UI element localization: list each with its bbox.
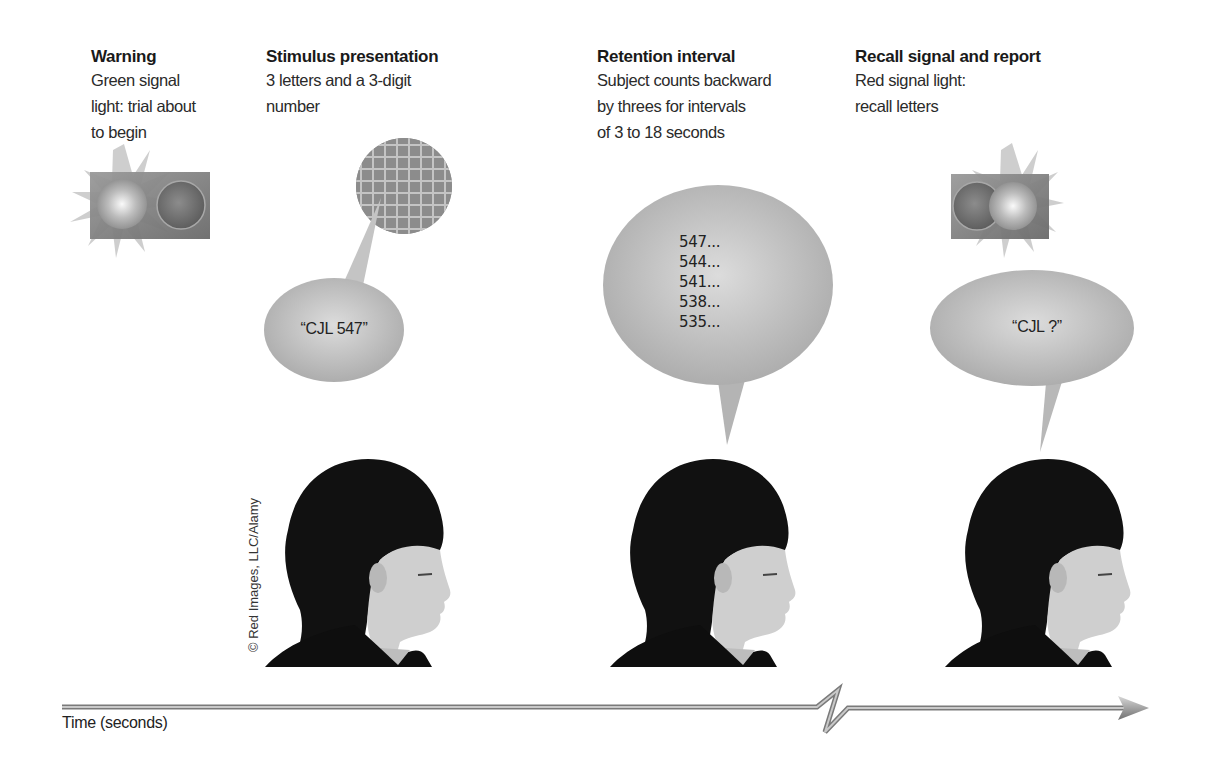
count-value: 547...	[679, 232, 759, 252]
step-desc-line: to begin	[91, 119, 196, 145]
red-signal-light-icon	[951, 143, 1064, 258]
recall-bubble-text: “CJL ?”	[992, 318, 1082, 336]
stimulus-grid-icon	[356, 138, 452, 234]
step-desc-line: Red signal light:	[855, 67, 1041, 93]
step-desc-line: recall letters	[855, 93, 1041, 119]
count-value: 538...	[679, 292, 759, 312]
step-title: Stimulus presentation	[266, 46, 438, 67]
stimulus-bubble-text: “CJL 547”	[284, 320, 384, 338]
count-value: 535...	[679, 312, 759, 332]
count-value: 544...	[679, 252, 759, 272]
photo-credit: © Red Images, LLC/Alamy	[246, 498, 261, 652]
step-desc-line: number	[266, 93, 438, 119]
subject-face-image-1	[265, 459, 450, 667]
step-title: Recall signal and report	[855, 46, 1041, 67]
time-axis-arrow	[62, 690, 1149, 732]
subject-face-image-2	[610, 459, 795, 667]
step-recall-signal: Recall signal and report Red signal ligh…	[855, 46, 1041, 119]
subject-face-image-3	[945, 459, 1130, 667]
step-retention-interval: Retention interval Subject counts backwa…	[597, 46, 771, 145]
count-value: 541...	[679, 272, 759, 292]
step-warning: Warning Green signal light: trial about …	[91, 46, 196, 145]
step-title: Warning	[91, 46, 196, 67]
step-desc-line: 3 letters and a 3-digit	[266, 67, 438, 93]
counting-sequence: 547... 544... 541... 538... 535...	[678, 232, 759, 332]
step-desc-line: by threes for intervals	[597, 93, 771, 119]
step-desc-line: of 3 to 18 seconds	[597, 119, 771, 145]
step-stimulus-presentation: Stimulus presentation 3 letters and a 3-…	[266, 46, 438, 119]
time-axis-label: Time (seconds)	[62, 714, 167, 732]
step-desc-line: Subject counts backward	[597, 67, 771, 93]
step-desc-line: Green signal	[91, 67, 196, 93]
step-title: Retention interval	[597, 46, 771, 67]
green-signal-light-icon	[70, 144, 210, 258]
step-desc-line: light: trial about	[91, 93, 196, 119]
